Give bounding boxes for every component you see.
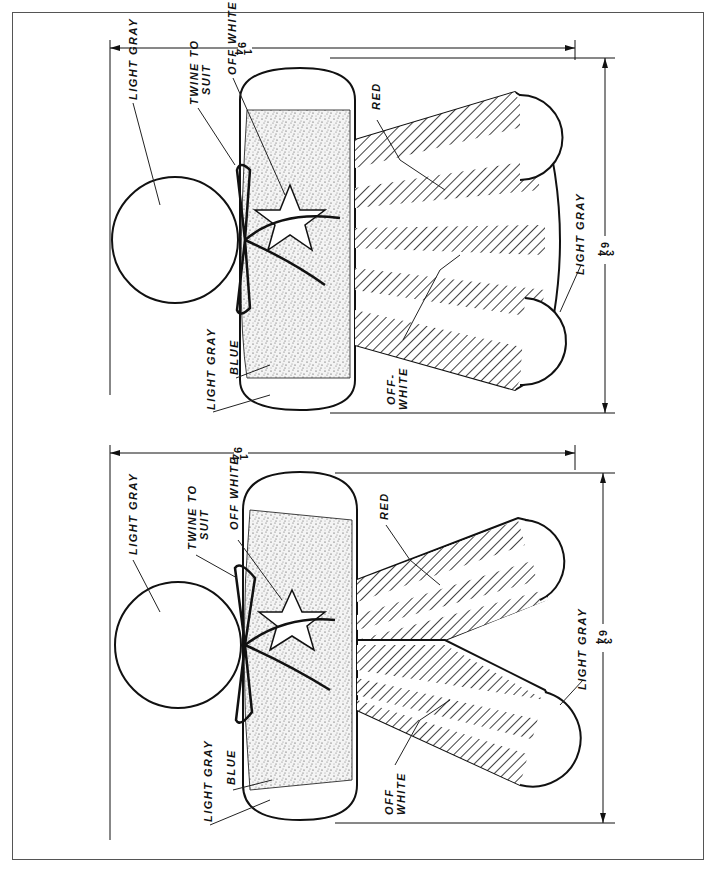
foot-lower — [520, 298, 566, 385]
label-head-bottom: LIGHT GRAY — [127, 473, 139, 555]
label-twine-bottom: TWINE TO — [186, 484, 198, 550]
head-shape — [115, 582, 241, 708]
svg-text:WHITE: WHITE — [395, 772, 407, 815]
label-twine-top: TWINE TO — [188, 39, 200, 105]
label-red-bottom: RED — [378, 492, 390, 520]
label-hands-bottom: LIGHT GRAY — [202, 740, 214, 822]
figure-top: 9 1 4 6 3 4 — [110, 1, 616, 413]
torso-blue — [244, 510, 352, 790]
torso-blue — [241, 110, 350, 378]
svg-text:4: 4 — [596, 250, 608, 257]
label-feet-top: LIGHT GRAY — [574, 193, 586, 275]
head-shape — [112, 177, 238, 303]
dim-length-whole: 9 — [232, 447, 244, 453]
label-feet-bottom: LIGHT GRAY — [576, 608, 588, 690]
label-star-bottom: OFF WHITE — [228, 456, 240, 530]
dim-width-whole: 6 — [597, 630, 609, 636]
figure-bottom: 9 1 4 6 3 4 — [110, 441, 615, 840]
svg-text:SUIT: SUIT — [198, 509, 210, 540]
svg-text:SUIT: SUIT — [200, 64, 212, 95]
svg-text:WHITE: WHITE — [397, 367, 409, 410]
svg-text:4: 4 — [594, 638, 606, 645]
label-blue-top: BLUE — [228, 339, 240, 375]
label-star-top: OFF WHITE — [226, 1, 238, 75]
label-red-top: RED — [370, 82, 382, 110]
pattern-diagram: 9 1 4 6 3 4 — [0, 0, 715, 873]
dim-width-whole: 6 — [599, 242, 611, 248]
foot-upper — [520, 95, 563, 180]
label-offwhite-top: OFF- — [385, 373, 397, 405]
label-offwhite-bottom: OFF — [383, 789, 395, 816]
label-hands-top: LIGHT GRAY — [205, 328, 217, 410]
label-blue-bottom: BLUE — [225, 749, 237, 785]
label-head-top: LIGHT GRAY — [127, 18, 139, 100]
